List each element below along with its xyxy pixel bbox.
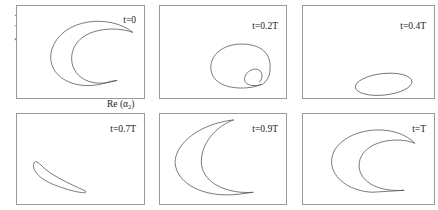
panel-label: t=0.7T <box>110 124 136 134</box>
panel-tT: t=T <box>302 113 435 205</box>
panel-t0.9T: t=0.9T <box>159 113 287 205</box>
panel-t0.7T: t=0.7T <box>16 113 145 205</box>
panel-t0: t=0 <box>16 5 145 99</box>
panel-label: t=0.4T <box>400 21 426 31</box>
ellipse-plot <box>303 6 434 98</box>
panel-label: t=T <box>412 124 426 134</box>
x-axis-label-text: Re (α <box>107 99 128 109</box>
x-axis-label-close: ) <box>131 99 134 109</box>
panel-t0.4T: t=0.4T <box>302 5 435 99</box>
ellipse-lobe-plot <box>160 6 286 98</box>
x-axis-label-sub: 2 <box>128 103 131 110</box>
panel-label: t=0.9T <box>252 124 278 134</box>
panel-label: t=0 <box>123 15 136 25</box>
panel-label: t=0.2T <box>252 21 278 31</box>
x-axis-label: Re (α2) <box>107 99 135 109</box>
panel-t0.2T: t=0.2T <box>159 5 287 99</box>
